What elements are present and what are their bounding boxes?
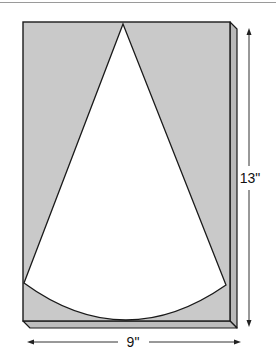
arrow-left-icon (27, 340, 34, 345)
cone-pattern-diagram: 13" 9" (0, 0, 276, 363)
arrow-up-icon (247, 28, 252, 35)
height-label: 13" (240, 170, 261, 186)
board-side-face (230, 22, 237, 328)
arrow-right-icon (234, 340, 241, 345)
width-label: 9" (127, 334, 140, 350)
height-dimension: 13" (240, 28, 261, 327)
width-dimension: 9" (27, 334, 241, 350)
board-bottom-face (23, 321, 237, 328)
arrow-down-icon (247, 320, 252, 327)
